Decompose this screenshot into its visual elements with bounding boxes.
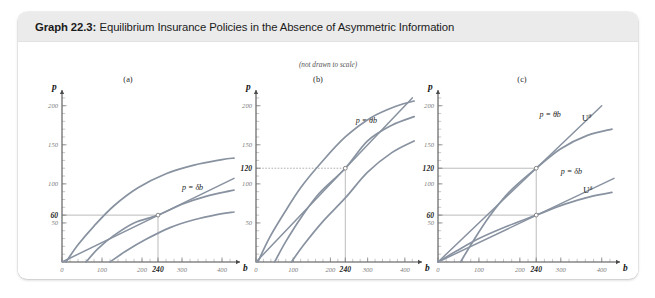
panel-b: (b)bp010020024030040050100120150200p = θ…: [230, 42, 406, 278]
y-tick-label: 60: [426, 211, 434, 220]
curve-label: Uθ: [582, 113, 591, 123]
plot-a: bp01002002403004005060100150200p = δb: [26, 86, 250, 279]
x-tick-label: 100: [474, 266, 485, 273]
x-tick-label: 200: [137, 266, 148, 273]
y-tick-label: 120: [423, 164, 435, 173]
series-u-delta-lower: [110, 212, 234, 262]
y-tick-label: 100: [424, 180, 435, 187]
y-tick-label: 200: [424, 102, 435, 109]
y-tick-label: 150: [48, 141, 59, 148]
x-tick-label: 240: [530, 265, 543, 274]
y-axis-label: p: [51, 82, 57, 92]
plot-b: bp010020024030040050100120150200p = θb: [230, 86, 426, 279]
x-tick-label: 400: [597, 266, 608, 273]
equilibrium-point: [343, 166, 347, 170]
curve-label: Uδ: [583, 185, 592, 195]
y-tick-label: 50: [427, 219, 434, 226]
curve-label: p = θb: [539, 110, 561, 119]
panel-a: (a)bp01002002403004005060100150200p = δb: [26, 42, 230, 278]
x-tick-label: 200: [515, 266, 526, 273]
x-tick-label: 300: [362, 266, 374, 273]
y-tick-label: 200: [242, 102, 253, 109]
x-tick-label: 240: [339, 265, 352, 274]
figure-body: (not drawn to scale) (a)bp01002002403004…: [18, 42, 638, 278]
figure-label: Graph 22.3:: [35, 21, 96, 33]
series-p-db: [62, 178, 234, 262]
y-tick-label: 100: [242, 180, 253, 187]
figure-card: Graph 22.3: Equilibrium Insurance Polici…: [18, 12, 638, 279]
y-tick-label: 50: [51, 219, 58, 226]
y-tick-label: 60: [50, 211, 58, 220]
figure-title: Equilibrium Insurance Policies in the Ab…: [100, 21, 455, 33]
plot-c: bp01002002403004005060100120150200p = θb…: [406, 86, 638, 279]
x-tick-label: 100: [288, 266, 299, 273]
x-tick-label: 200: [325, 266, 336, 273]
curve-label: p = δb: [560, 167, 582, 176]
series-u-delta-upper: [66, 158, 234, 262]
equilibrium-point: [156, 213, 160, 217]
figure-header: Graph 22.3: Equilibrium Insurance Polici…: [18, 12, 638, 42]
panel-letter: (c): [406, 75, 638, 84]
x-tick-label: 0: [436, 266, 440, 273]
series-u-delta-equilibrium: [86, 190, 234, 262]
y-tick-label: 120: [241, 164, 253, 173]
y-tick-label: 50: [245, 219, 252, 226]
x-tick-label: 0: [60, 266, 64, 273]
y-tick-label: 150: [424, 141, 435, 148]
panel-c: (c)bp01002002403004005060100120150200p =…: [406, 42, 638, 278]
x-tick-label: 300: [555, 266, 567, 273]
equilibrium-point: [534, 166, 538, 170]
series-u-delta: [438, 192, 612, 262]
x-tick-label: 0: [254, 266, 258, 273]
curve-label: p = δb: [181, 183, 203, 192]
series-p-theta-b: [438, 106, 602, 262]
x-tick-label: 100: [97, 266, 108, 273]
figure-page: Graph 22.3: Equilibrium Insurance Polici…: [0, 0, 655, 298]
x-axis-label: b: [623, 263, 628, 273]
y-axis-label: p: [427, 82, 433, 92]
x-tick-label: 240: [151, 265, 164, 274]
y-tick-label: 150: [242, 141, 253, 148]
panel-container: (a)bp01002002403004005060100150200p = δb…: [18, 42, 638, 278]
equilibrium-point: [534, 213, 538, 217]
x-tick-label: 400: [217, 266, 228, 273]
x-tick-label: 300: [176, 266, 188, 273]
panel-letter: (b): [230, 75, 406, 84]
y-tick-label: 100: [48, 180, 59, 187]
y-axis-label: p: [245, 82, 251, 92]
y-tick-label: 200: [48, 102, 59, 109]
